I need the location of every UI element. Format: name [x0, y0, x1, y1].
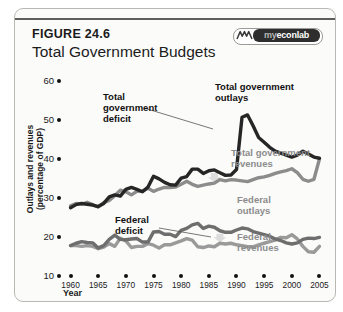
x-tick-label: 2000 — [279, 280, 305, 290]
chart-plot-area: Outlays and revenues (percentage of GDP)… — [15, 9, 336, 302]
annotation-federal-outlays: Federal outlays — [237, 194, 271, 216]
x-tick-dot — [124, 274, 128, 278]
y-tick-dot — [57, 196, 61, 200]
x-tick-label: 1970 — [113, 280, 139, 290]
y-tick-dot — [57, 274, 61, 278]
y-tick-label: 10 — [34, 270, 54, 281]
annotation-federal-revenues: Federal revenues — [237, 231, 279, 253]
deficit-gap-arrow — [213, 234, 226, 242]
annotation-total-government-outlays: Total government outlays — [215, 81, 294, 103]
x-tick-dot — [69, 274, 73, 278]
annotation-total-government-deficit: Total government deficit — [103, 91, 157, 124]
annotation-federal-deficit: Federal deficit — [115, 214, 149, 236]
figure-card: FIGURE 24.6 Total Government Budgets mye… — [14, 8, 336, 302]
annotation-total-government-revenues: Total government revenues — [231, 147, 310, 169]
x-tick-label: 1960 — [58, 280, 84, 290]
x-tick-label: 1995 — [251, 280, 277, 290]
y-tick-label: 40 — [34, 153, 54, 164]
x-tick-label: 1980 — [168, 280, 194, 290]
y-tick-dot — [57, 157, 61, 161]
x-tick-dot — [152, 274, 156, 278]
y-tick-dot — [57, 79, 61, 83]
x-tick-dot — [290, 274, 294, 278]
x-tick-label: 1975 — [141, 280, 167, 290]
y-tick-label: 30 — [34, 192, 54, 203]
y-tick-dot — [57, 235, 61, 239]
x-tick-label: 1990 — [223, 280, 249, 290]
y-tick-label: 20 — [34, 231, 54, 242]
y-tick-label: 50 — [34, 114, 54, 125]
y-tick-dot — [57, 118, 61, 122]
y-tick-label: 60 — [34, 75, 54, 86]
x-tick-label: 1965 — [85, 280, 111, 290]
x-tick-dot — [207, 274, 211, 278]
x-tick-label: 1985 — [196, 280, 222, 290]
x-tick-label: 2005 — [306, 280, 332, 290]
